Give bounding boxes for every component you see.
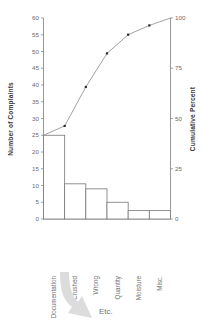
left-tick-label: 0 — [36, 215, 40, 222]
cumulative-percent-line — [44, 18, 171, 135]
left-tick-label: 55 — [32, 31, 39, 38]
cumulative-point-marker — [85, 86, 87, 88]
bar-rect — [86, 189, 107, 219]
left-tick-label: 25 — [32, 131, 39, 138]
etc-annotation-label: Etc. — [99, 307, 113, 316]
right-tick-label: 100 — [175, 14, 186, 21]
category-label: Wrong — [92, 276, 100, 295]
left-tick-label: 50 — [32, 48, 39, 55]
category-label: Moisture — [135, 276, 142, 301]
bars-group — [44, 135, 171, 219]
bar-rect — [107, 202, 128, 219]
right-axis-title: Cumulative Percent — [189, 86, 196, 151]
bar-rect — [149, 211, 170, 219]
category-label: Quantity — [114, 275, 122, 299]
bar-rect — [128, 211, 149, 219]
left-tick-label: 45 — [32, 64, 39, 71]
left-axis-title: Number of Complaints — [7, 82, 15, 156]
left-tick-label: 10 — [32, 182, 39, 189]
cumulative-line-group — [44, 18, 171, 135]
right-tick-label: 50 — [175, 115, 182, 122]
left-tick-label: 35 — [32, 98, 39, 105]
cumulative-point-marker — [127, 34, 129, 36]
right-tick-label: 25 — [175, 165, 182, 172]
cumulative-point-marker — [148, 24, 150, 26]
pareto-chart: 051015202530354045505560 0255075100 Numb… — [0, 0, 202, 324]
category-label: Documentation — [50, 276, 57, 319]
left-tick-label: 20 — [32, 148, 39, 155]
right-tick-label: 0 — [175, 215, 179, 222]
left-tick-label: 5 — [36, 198, 40, 205]
left-tick-label: 60 — [32, 14, 39, 21]
left-tick-label: 40 — [32, 81, 39, 88]
left-axis-ticks: 051015202530354045505560 — [32, 14, 43, 222]
category-label: Misc. — [156, 276, 163, 291]
cumulative-point-marker — [64, 125, 66, 127]
right-tick-label: 75 — [175, 64, 182, 71]
bar-rect — [44, 135, 65, 219]
cumulative-point-marker — [106, 52, 108, 54]
cumulative-markers-group — [64, 24, 151, 127]
right-axis-ticks: 0255075100 — [171, 14, 186, 222]
bar-rect — [65, 184, 86, 219]
left-tick-label: 15 — [32, 165, 39, 172]
left-tick-label: 30 — [32, 115, 39, 122]
